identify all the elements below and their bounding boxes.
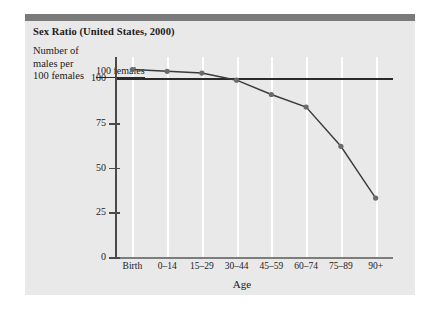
data-point-marker	[269, 92, 274, 97]
y-tick-mark	[109, 123, 120, 125]
x-tick-label: 15–29	[190, 261, 214, 271]
data-point-marker	[338, 144, 343, 149]
data-point-marker	[165, 69, 170, 74]
x-tick-label: 30–44	[225, 261, 249, 271]
y-tick-mark	[109, 212, 120, 214]
data-point-marker	[199, 70, 204, 75]
y-tick-mark	[109, 168, 120, 170]
x-tick-label: 60–74	[294, 261, 318, 271]
data-point-marker	[373, 195, 378, 200]
series-line	[132, 70, 375, 199]
x-tick-label: 90+	[368, 261, 383, 271]
x-tick-label: 45–59	[260, 261, 284, 271]
x-tick-label: Birth	[123, 261, 143, 271]
chart-figure: Sex Ratio (United States, 2000) Number o…	[0, 0, 434, 311]
x-tick-label: 0–14	[158, 261, 177, 271]
data-point-marker	[234, 78, 239, 83]
y-tick-mark	[109, 257, 120, 259]
data-point-marker	[130, 67, 135, 72]
data-point-marker	[304, 104, 309, 109]
x-tick-label: 75–89	[329, 261, 353, 271]
